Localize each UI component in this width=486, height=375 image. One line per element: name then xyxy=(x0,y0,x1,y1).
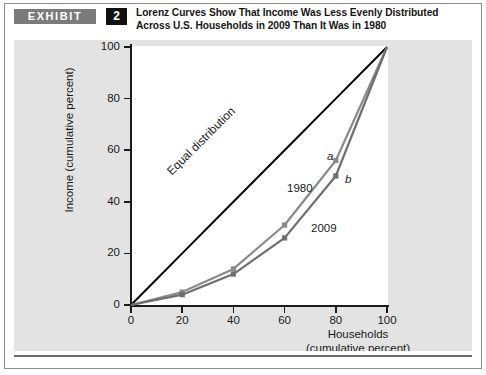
data-point-marker xyxy=(282,235,287,240)
data-point-marker xyxy=(180,292,185,297)
exhibit-figure: EXHIBIT 2 Lorenz Curves Show That Income… xyxy=(0,0,486,375)
lorenz-curves xyxy=(14,40,472,351)
exhibit-title: Lorenz Curves Show That Income Was Less … xyxy=(136,7,472,32)
exhibit-number-badge: 2 xyxy=(106,8,127,25)
exhibit-header: EXHIBIT 2 Lorenz Curves Show That Income… xyxy=(14,8,470,38)
chart-panel: 020406080100020406080100 Income (cumulat… xyxy=(14,40,472,351)
data-point-marker xyxy=(333,158,338,163)
panel-bottom-rule xyxy=(14,355,472,357)
data-point-marker xyxy=(282,222,287,227)
data-point-marker xyxy=(333,173,338,178)
data-point-marker xyxy=(231,266,236,271)
annotation-point-a: a xyxy=(327,150,333,162)
annotation-series-1980: 1980 xyxy=(287,182,313,194)
data-point-marker xyxy=(231,271,236,276)
annotation-series-2009: 2009 xyxy=(311,222,337,234)
annotation-point-b: b xyxy=(345,173,351,185)
exhibit-tag: EXHIBIT xyxy=(14,9,96,24)
